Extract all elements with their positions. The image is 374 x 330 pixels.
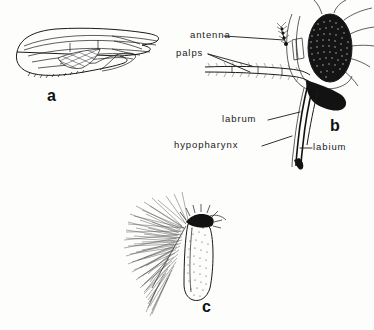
illustration-plate: a [0,0,374,330]
figure-letter-c: c [202,299,211,315]
figure-c-antenna [0,0,374,330]
